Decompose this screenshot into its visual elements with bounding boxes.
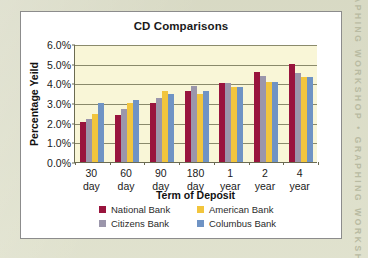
bar-group — [254, 45, 278, 162]
x-axis-tick — [110, 162, 111, 165]
x-axis-title: Term of Deposit — [74, 189, 317, 201]
legend-swatch — [99, 220, 106, 227]
bar-group — [80, 45, 104, 162]
x-axis-tick — [75, 162, 76, 165]
y-axis-tick — [72, 104, 75, 105]
y-axis-tick-label: 0.0% — [47, 157, 71, 169]
x-axis-tick — [249, 162, 250, 165]
chart-legend: National BankAmerican BankCitizens BankC… — [99, 204, 289, 229]
y-axis-tick — [72, 84, 75, 85]
bar — [168, 94, 174, 162]
legend-label: American Bank — [209, 204, 273, 215]
bar — [237, 87, 243, 162]
legend-item[interactable]: Citizens Bank — [99, 218, 191, 229]
legend-label: Citizens Bank — [111, 218, 169, 229]
bar — [133, 100, 139, 162]
legend-item[interactable]: National Bank — [99, 204, 191, 215]
bar-group — [289, 45, 313, 162]
x-axis-tick — [144, 162, 145, 165]
margin-watermark-text: GRAPHING WORKSHOP • GRAPHING WORKSHOP — [353, 0, 363, 258]
legend-label: Columbus Bank — [209, 218, 276, 229]
legend-item[interactable]: Columbus Bank — [197, 218, 289, 229]
margin-watermark: GRAPHING WORKSHOP • GRAPHING WORKSHOP — [349, 0, 367, 258]
bar-group — [185, 45, 209, 162]
y-axis-tick-label: 5.0% — [47, 59, 71, 71]
bar — [307, 77, 313, 162]
y-axis-title: Percentage Yeild — [27, 45, 41, 163]
y-axis-tick — [72, 64, 75, 65]
x-axis-tick — [214, 162, 215, 165]
chart-card: CD Comparisons Percentage Yeild 0.0%1.0%… — [20, 11, 342, 239]
y-axis-tick — [72, 123, 75, 124]
x-axis-tick — [179, 162, 180, 165]
y-axis-title-text: Percentage Yeild — [28, 62, 40, 146]
bar-group — [150, 45, 174, 162]
x-axis-tick — [283, 162, 284, 165]
y-axis-tick — [72, 143, 75, 144]
legend-item[interactable]: American Bank — [197, 204, 289, 215]
y-axis-tick-label: 4.0% — [47, 78, 71, 90]
bar-group — [219, 45, 243, 162]
legend-swatch — [99, 206, 106, 213]
plot-wrapper: 0.0%1.0%2.0%3.0%4.0%5.0%6.0% 30day60day9… — [74, 45, 317, 163]
chart-title: CD Comparisons — [21, 20, 341, 32]
legend-swatch — [197, 206, 204, 213]
legend-swatch — [197, 220, 204, 227]
y-axis-tick-label: 3.0% — [47, 98, 71, 110]
y-axis-tick-label: 2.0% — [47, 118, 71, 130]
y-axis-tick — [72, 45, 75, 46]
y-axis-tick-label: 6.0% — [47, 39, 71, 51]
bar — [203, 91, 209, 162]
bar — [272, 82, 278, 162]
x-axis-tick-label-line: 4 — [280, 167, 320, 180]
plot-area: 0.0%1.0%2.0%3.0%4.0%5.0%6.0% — [74, 45, 317, 163]
y-axis-tick-label: 1.0% — [47, 137, 71, 149]
legend-label: National Bank — [111, 204, 170, 215]
bar-group — [115, 45, 139, 162]
x-axis-tick — [318, 162, 319, 165]
bar — [98, 103, 104, 162]
